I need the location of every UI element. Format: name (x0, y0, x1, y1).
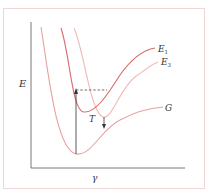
curve-g (41, 27, 163, 154)
x-axis-label: γ (92, 173, 98, 183)
curve-e1 (61, 28, 155, 112)
curve-label-e1: E1 (157, 44, 168, 55)
transition-label: T (89, 114, 96, 124)
curve-label-g: G (165, 103, 172, 113)
curve-e3 (74, 28, 158, 117)
arrowhead-up-icon (74, 88, 78, 94)
energy-diagram: E γ T E1 E3 G (0, 0, 215, 191)
y-axis-label: E (18, 78, 27, 89)
arrowhead-down-icon (102, 124, 106, 129)
curve-label-e3: E3 (160, 57, 172, 68)
